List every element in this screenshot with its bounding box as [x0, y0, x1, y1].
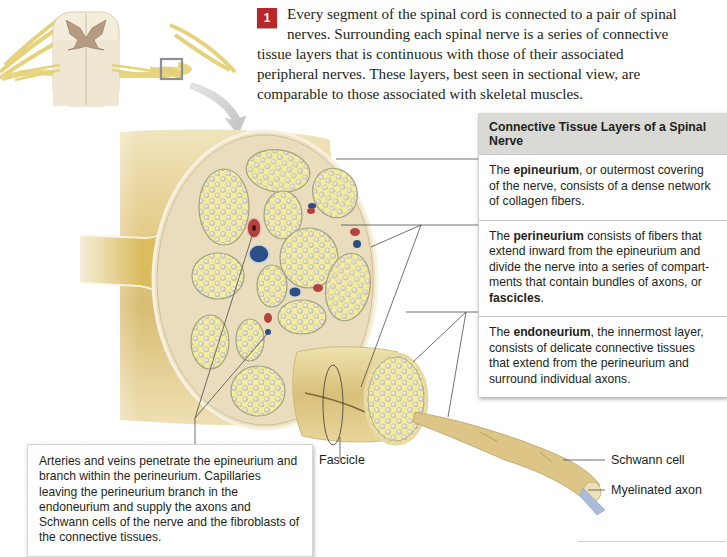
- divider: [578, 541, 726, 542]
- zoom-arrow-icon: [190, 83, 246, 135]
- perineurium-description: The perineurium consists of fibers that …: [479, 220, 727, 317]
- text: The: [489, 163, 513, 177]
- blood-vessel-callout: Arteries and veins penetrate the epineur…: [27, 444, 313, 557]
- term-endoneurium: endoneurium: [513, 325, 590, 339]
- text: .: [541, 291, 544, 305]
- term-epineurium: epineurium: [513, 163, 579, 177]
- connective-tissue-panel: Connective Tissue Layers of a Spinal Ner…: [478, 113, 727, 397]
- intro-paragraph: 1 Every segment of the spinal cord is co…: [257, 4, 687, 104]
- panel-title: Connective Tissue Layers of a Spinal Ner…: [479, 113, 727, 154]
- label-fascicle: Fascicle: [319, 453, 365, 467]
- intro-text: Every segment of the spinal cord is conn…: [257, 5, 677, 102]
- term-perineurium: perineurium: [513, 229, 583, 243]
- label-schwann-cell: Schwann cell: [611, 453, 685, 467]
- term-fascicles: fascicles: [489, 291, 541, 305]
- label-myelinated-axon: Myelinated axon: [611, 483, 702, 497]
- text: The: [489, 229, 513, 243]
- step-number-badge: 1: [257, 8, 277, 28]
- endoneurium-description: The endoneurium, the innermost layer, co…: [479, 316, 727, 397]
- epineurium-description: The epineurium, or outermost covering of…: [479, 154, 727, 220]
- text: The: [489, 325, 513, 339]
